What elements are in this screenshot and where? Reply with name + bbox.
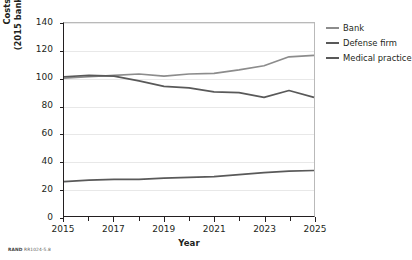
series-line [64,75,314,97]
y-axis-tick-label: 20 [0,185,53,194]
legend-item-label: Medical practice [343,53,412,63]
x-axis-tick-minor [239,217,240,221]
legend-line-swatch-icon [326,42,339,44]
x-axis-tick-minor [88,217,89,221]
y-axis-tick-label: 100 [0,73,53,82]
legend-line-swatch-icon [326,57,339,59]
y-axis-tick-label: 60 [0,129,53,138]
x-axis-tick-major [113,217,114,222]
x-axis-tick-major [315,217,316,222]
series-line [64,171,314,182]
x-axis-tick-label: 2023 [253,224,276,235]
x-axis-tick-labels: 201520172019202120232025 [63,224,315,236]
y-axis-tick-label: 140 [0,18,53,27]
legend-item-label: Bank [343,23,364,33]
figure-container: Costs over time, by percentage (2015 ban… [0,0,412,260]
legend-item[interactable]: Bank [326,21,412,35]
x-axis-tick-label: 2019 [152,224,175,235]
x-axis-tick-major [164,217,165,222]
x-axis-tick-major [265,217,266,222]
x-axis-tick-major [214,217,215,222]
legend: BankDefense firmMedical practice [326,21,412,66]
rand-wordmark: RAND [8,247,23,252]
y-axis-tick-label: 80 [0,101,53,110]
y-axis-tick-label: 0 [0,213,53,222]
y-axis-tick-label: 40 [0,157,53,166]
x-axis-ticks [63,217,315,223]
figure-id-number: RR1024-5.8 [24,247,51,252]
series-line [64,55,314,78]
x-axis-tick-major [63,217,64,222]
series-lines [64,23,314,216]
x-axis-tick-label: 2017 [102,224,125,235]
y-axis-tick-labels: 020406080100120140 [0,22,53,217]
legend-line-swatch-icon [326,27,339,29]
x-axis-tick-label: 2015 [52,224,75,235]
x-axis-tick-minor [189,217,190,221]
x-axis-tick-label: 2021 [203,224,226,235]
x-axis-tick-minor [139,217,140,221]
figure-identifier: RAND RR1024-5.8 [8,247,51,253]
plot-area [63,22,315,217]
x-axis-tick-label: 2025 [304,224,327,235]
legend-item[interactable]: Defense firm [326,36,412,50]
legend-item[interactable]: Medical practice [326,51,412,65]
y-axis-tick-label: 120 [0,45,53,54]
x-axis-tick-minor [290,217,291,221]
x-axis-title: Year [63,238,315,248]
legend-item-label: Defense firm [343,38,397,48]
